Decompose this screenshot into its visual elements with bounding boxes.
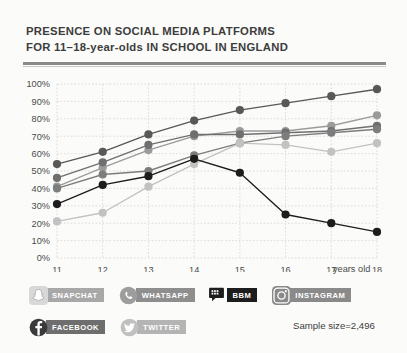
data-point-bbm: [53, 200, 61, 208]
data-point-facebook: [281, 99, 289, 107]
data-point-facebook: [53, 160, 61, 168]
data-point-twitter: [99, 209, 107, 217]
legend-item-instagram[interactable]: INSTAGRAM: [271, 285, 351, 306]
data-point-instagram: [53, 174, 61, 182]
data-point-facebook: [373, 85, 381, 93]
data-point-snapchat: [373, 111, 381, 119]
chart-title-line-2: FOR 11–18-year-olds IN SCHOOL IN ENGLAND: [26, 40, 356, 56]
facebook-icon: [28, 317, 49, 338]
y-tick-label: 100%: [27, 79, 51, 89]
legend-item-facebook[interactable]: FACEBOOK: [28, 317, 105, 338]
y-tick-label: 70%: [32, 132, 50, 142]
data-point-instagram: [99, 158, 107, 166]
legend-label-snapchat: SNAPCHAT: [46, 288, 104, 302]
y-tick-label: 40%: [32, 184, 50, 194]
data-point-bbm: [144, 172, 152, 180]
legend-label-twitter: TWITTER: [137, 320, 186, 334]
data-point-bbm: [190, 155, 198, 163]
data-point-bbm: [99, 181, 107, 189]
data-point-twitter: [281, 141, 289, 149]
legend-item-snapchat[interactable]: SNAPCHAT: [28, 285, 104, 306]
title-divider-secondary: [23, 66, 386, 67]
legend-label-whatsapp: WHATSAPP: [136, 288, 195, 302]
y-tick-label: 50%: [32, 166, 50, 176]
x-tick-label: 12: [98, 265, 108, 272]
bbm-icon: [209, 285, 230, 306]
y-tick-label: 10%: [32, 236, 50, 246]
y-tick-label: 20%: [32, 219, 50, 229]
y-axis-ticks: 0%10%20%30%40%50%60%70%80%90%100%: [27, 79, 51, 263]
x-tick-label: 15: [235, 265, 245, 272]
y-tick-label: 80%: [32, 114, 50, 124]
x-tick-label: 18: [372, 265, 382, 272]
data-point-bbm: [236, 169, 244, 177]
snapchat-icon: [28, 285, 49, 306]
data-point-whatsapp: [281, 132, 289, 140]
twitter-icon: [119, 317, 140, 338]
data-point-twitter: [144, 183, 152, 191]
legend-item-whatsapp[interactable]: WHATSAPP: [118, 285, 195, 306]
chart-page: PRESENCE ON SOCIAL MEDIA PLATFORMS FOR 1…: [0, 0, 407, 353]
legend: SNAPCHATWHATSAPPBBMINSTAGRAM FACEBOOKTWI…: [28, 283, 388, 347]
legend-item-twitter[interactable]: TWITTER: [119, 317, 186, 338]
data-point-facebook: [99, 148, 107, 156]
data-point-bbm: [373, 228, 381, 236]
data-point-whatsapp: [327, 129, 335, 137]
x-tick-label: 13: [143, 265, 153, 272]
plot-area: 0%10%20%30%40%50%60%70%80%90%100% 111213…: [0, 72, 407, 272]
data-point-twitter: [373, 139, 381, 147]
data-point-bbm: [327, 219, 335, 227]
y-tick-label: 90%: [32, 97, 50, 107]
data-point-facebook: [327, 92, 335, 100]
data-point-whatsapp: [99, 170, 107, 178]
data-point-twitter: [327, 148, 335, 156]
chart-title: PRESENCE ON SOCIAL MEDIA PLATFORMS FOR 1…: [26, 24, 356, 55]
data-point-whatsapp: [373, 125, 381, 133]
legend-label-bbm: BBM: [227, 288, 258, 302]
sample-size-note: Sample size=2,496: [293, 320, 375, 331]
data-point-whatsapp: [53, 184, 61, 192]
data-point-facebook: [190, 116, 198, 124]
line-chart-svg: 0%10%20%30%40%50%60%70%80%90%100% 111213…: [0, 72, 407, 272]
data-point-instagram: [144, 141, 152, 149]
instagram-icon: [271, 285, 292, 306]
whatsapp-icon: [118, 285, 139, 306]
x-axis-label: years old: [333, 264, 370, 274]
chart-title-line-1: PRESENCE ON SOCIAL MEDIA PLATFORMS: [26, 24, 356, 40]
data-point-bbm: [281, 210, 289, 218]
x-tick-label: 11: [52, 265, 62, 272]
legend-item-bbm[interactable]: BBM: [209, 285, 258, 306]
data-point-instagram: [236, 130, 244, 138]
y-tick-label: 30%: [32, 201, 50, 211]
x-tick-label: 14: [189, 265, 199, 272]
y-tick-label: 0%: [37, 253, 50, 263]
data-point-facebook: [144, 130, 152, 138]
x-tick-label: 16: [280, 265, 290, 272]
legend-label-instagram: INSTAGRAM: [289, 288, 351, 302]
data-point-facebook: [236, 106, 244, 114]
data-point-twitter: [53, 217, 61, 225]
gridlines: [57, 84, 377, 258]
data-point-instagram: [190, 130, 198, 138]
data-point-twitter: [236, 139, 244, 147]
data-series: [53, 85, 381, 236]
legend-label-facebook: FACEBOOK: [46, 320, 105, 334]
legend-row-primary: SNAPCHATWHATSAPPBBMINSTAGRAM: [28, 283, 388, 307]
y-tick-label: 60%: [32, 149, 50, 159]
series-line-whatsapp: [57, 129, 377, 188]
